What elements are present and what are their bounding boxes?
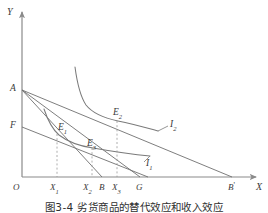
x-axis-label: X	[256, 182, 262, 192]
y-axis-label: Y	[7, 7, 13, 17]
tick-label-x3: X3	[112, 183, 121, 194]
equilibrium-label-e2-sub: 2	[119, 113, 122, 120]
tick-label-x2-base: X	[83, 182, 89, 192]
origin-label: O	[13, 183, 20, 192]
tick-label-b-prime: B'	[228, 183, 235, 192]
economics-figure: Y X O A F X1 X2 B X3 G B' E1 E2 E3 I2 I1…	[0, 0, 268, 213]
equilibrium-label-e1-base: E	[58, 122, 64, 132]
curve-label-i1: I1	[146, 159, 152, 170]
tick-label-x2: X2	[83, 183, 92, 194]
leader-line-i2	[158, 126, 168, 131]
figure-caption: 图3-4 劣货商品的替代效应和收入效应	[0, 199, 268, 213]
curve-label-i1-sub: 1	[149, 164, 152, 171]
tick-label-g: G	[136, 183, 143, 192]
indifference-curve-i2	[75, 67, 158, 131]
point-a-label: A	[10, 84, 16, 94]
tick-label-x1: X1	[50, 183, 59, 194]
curve-leader-lines	[144, 126, 168, 162]
tick-label-x2-sub: 2	[89, 188, 92, 195]
tick-label-x3-base: X	[112, 182, 118, 192]
equilibrium-label-e3-sub: 3	[93, 144, 96, 151]
tick-label-b-prime-base: B	[228, 182, 234, 192]
tick-label-g-base: G	[136, 182, 143, 192]
tick-label-x3-sub: 3	[118, 188, 121, 195]
equilibrium-label-e3-base: E	[87, 138, 93, 148]
tick-label-b: B	[99, 183, 105, 192]
tick-label-x1-base: X	[50, 182, 56, 192]
budget-lines-group	[22, 90, 232, 177]
tick-label-x1-sub: 1	[56, 188, 59, 195]
curve-label-i2-sub: 2	[173, 125, 176, 132]
equilibrium-label-e3: E3	[87, 139, 96, 150]
equilibrium-label-e2: E2	[113, 108, 122, 119]
tick-label-b-prime-mark: '	[234, 181, 235, 190]
equilibrium-label-e1: E1	[58, 123, 67, 134]
budget-line-a-bprime	[22, 90, 232, 177]
budget-line-a-g	[22, 90, 140, 177]
curve-label-i2: I2	[170, 120, 176, 131]
equilibrium-label-e2-base: E	[113, 107, 119, 117]
tick-label-b-base: B	[99, 182, 105, 192]
equilibrium-label-e1-sub: 1	[64, 128, 67, 135]
point-f-label: F	[10, 121, 16, 131]
